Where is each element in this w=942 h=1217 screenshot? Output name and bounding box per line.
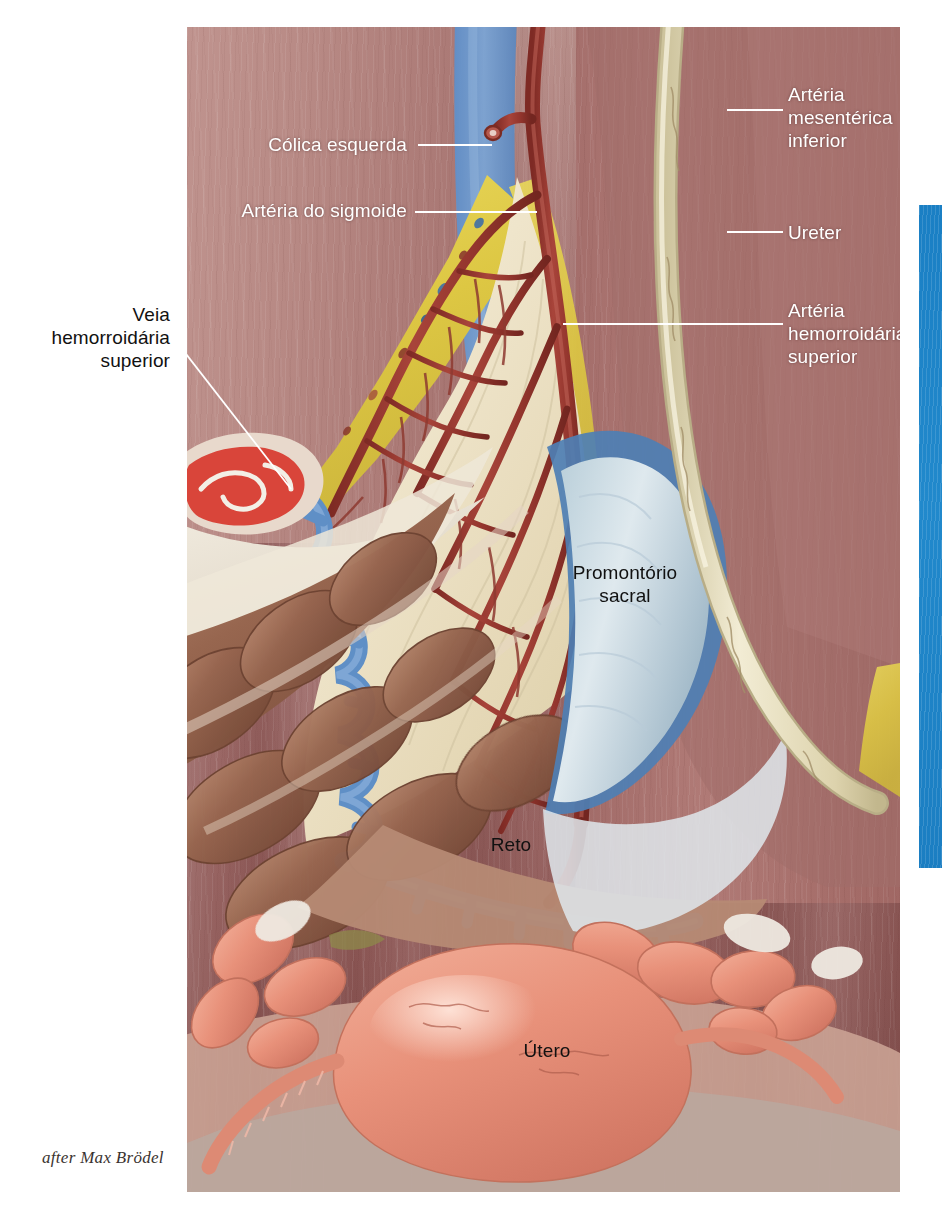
label-promontorio-line1: Promontório [535, 561, 715, 584]
label-reto: Reto [451, 833, 571, 856]
accent-bar-texture [919, 205, 942, 868]
label-vhs-line3: superior [0, 349, 170, 372]
label-reto-line1: Reto [451, 833, 571, 856]
leader-lines-overlay [187, 27, 900, 1192]
label-utero-line1: Útero [477, 1039, 617, 1062]
label-vhs-line2: hemorroidária [0, 326, 170, 349]
figure-page: Cólica esquerda Artéria do sigmoide Arté… [0, 0, 942, 1217]
attribution-text: after Max Brödel [42, 1148, 164, 1168]
anatomy-illustration: Cólica esquerda Artéria do sigmoide Arté… [187, 27, 900, 1192]
label-utero: Útero [477, 1039, 617, 1062]
label-vhs-line1: Veia [0, 303, 170, 326]
label-veia-hemorroidaria-superior: Veia hemorroidária superior [0, 303, 170, 372]
label-promontorio-sacral: Promontório sacral [535, 561, 715, 607]
right-accent-bar [919, 205, 942, 868]
label-promontorio-line2: sacral [535, 584, 715, 607]
